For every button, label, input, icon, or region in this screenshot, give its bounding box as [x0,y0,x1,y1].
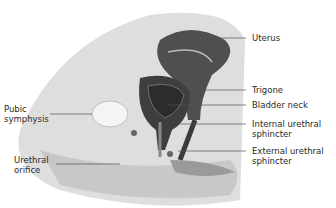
label-pubic-symphysis: Pubic symphysis [4,104,49,124]
label-internal-urethral-sphincter: Internal urethral sphincter [252,119,321,139]
sphincter-mark-left [131,130,137,136]
label-uterus: Uterus [252,33,280,43]
label-bladder-neck: Bladder neck [252,100,308,110]
label-external-urethral-sphincter: External urethral sphincter [252,146,324,166]
external-sphincter-mark [167,151,173,157]
label-trigone: Trigone [252,85,283,95]
label-urethral-orifice: Urethral orifice [14,155,49,175]
pubic-symphysis-bone [92,101,128,127]
